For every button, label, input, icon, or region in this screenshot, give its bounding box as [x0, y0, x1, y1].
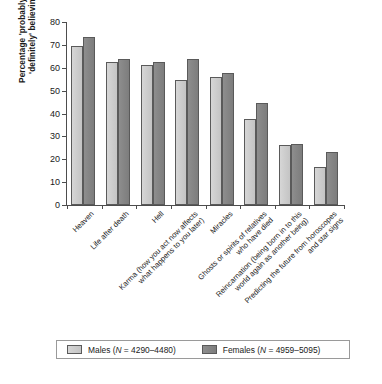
y-axis-title-line1: Percentage 'probably' or — [18, 0, 28, 83]
y-tick-label: 0 — [55, 200, 60, 210]
category-label-line: Miracles — [209, 210, 235, 236]
bar-females — [153, 62, 165, 205]
legend: Males (N = 4290–4480) Females (N = 4959–… — [56, 340, 350, 359]
x-tick-mark — [344, 205, 345, 209]
x-tick-mark — [171, 205, 172, 209]
bar-males — [71, 46, 83, 205]
category-label-line: what happens to you later) — [124, 216, 206, 298]
plot-area: 01020304050607080 HeavenLife after death… — [67, 22, 344, 205]
bar-group — [314, 152, 340, 205]
bar-males — [314, 167, 326, 205]
category-label: Hell — [150, 210, 165, 225]
bar-males — [175, 80, 187, 205]
x-tick-mark — [206, 205, 207, 209]
bar-females — [256, 103, 268, 205]
y-tick-label: 30 — [50, 131, 60, 141]
x-tick-mark — [275, 205, 276, 209]
bar-group — [210, 73, 236, 205]
legend-item-females: Females (N = 4959–5095) — [202, 345, 321, 355]
bar-females — [222, 73, 234, 205]
bar-group — [175, 59, 201, 205]
bar-group — [279, 144, 305, 205]
legend-item-males: Males (N = 4290–4480) — [67, 345, 176, 355]
bar-males — [244, 119, 256, 205]
bar-females — [187, 59, 199, 205]
legend-swatch-females — [202, 345, 217, 354]
x-axis-category-labels: HeavenLife after deathHellKarma (how you… — [67, 210, 344, 340]
y-tick-label: 40 — [50, 109, 60, 119]
y-tick-label: 60 — [50, 63, 60, 73]
y-tick-label: 20 — [50, 154, 60, 164]
bar-males — [106, 62, 118, 205]
category-label: Heaven — [72, 210, 97, 235]
y-tick-label: 70 — [50, 40, 60, 50]
y-tick-label: 10 — [50, 177, 60, 187]
bar-males — [210, 77, 222, 205]
bar-series-container — [67, 22, 344, 205]
bar-females — [83, 37, 95, 205]
category-label-line: Hell — [150, 210, 165, 225]
y-axis-title: Percentage 'probably' or 'definitely' be… — [18, 0, 38, 124]
y-axis-title-line2: 'definitely' believing — [28, 0, 38, 74]
legend-label-females: Females (N = 4959–5095) — [223, 345, 321, 355]
bar-females — [118, 59, 130, 205]
legend-swatch-males — [67, 345, 82, 354]
bar-group — [244, 103, 270, 205]
bar-males — [141, 65, 153, 205]
category-label: Karma (how you act now affectswhat happe… — [118, 210, 206, 298]
bar-females — [291, 144, 303, 205]
bar-chart: Percentage 'probably' or 'definitely' be… — [0, 0, 382, 384]
x-tick-mark — [102, 205, 103, 209]
bar-group — [141, 62, 167, 205]
legend-label-males: Males (N = 4290–4480) — [88, 345, 176, 355]
category-label-line: Heaven — [72, 210, 97, 235]
bar-group — [71, 37, 97, 205]
bar-males — [279, 145, 291, 205]
x-tick-mark — [309, 205, 310, 209]
category-label: Miracles — [209, 210, 235, 236]
x-tick-mark — [240, 205, 241, 209]
y-tick-label: 80 — [50, 17, 60, 27]
x-tick-mark — [136, 205, 137, 209]
bar-females — [326, 152, 338, 205]
bar-group — [106, 59, 132, 205]
x-tick-mark — [67, 205, 68, 209]
y-tick-label: 50 — [50, 86, 60, 96]
